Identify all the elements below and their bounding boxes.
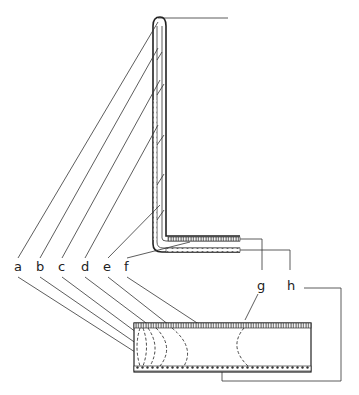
label-g: g — [257, 278, 265, 293]
label-h: h — [287, 278, 295, 293]
label-c: c — [58, 259, 65, 274]
label-f: f — [124, 259, 129, 274]
leader-lines-upper — [18, 22, 190, 258]
layer-diagram: a b c d e f g h — [0, 0, 359, 395]
label-a: a — [14, 259, 22, 274]
label-e: e — [103, 259, 111, 274]
label-b: b — [36, 259, 44, 274]
label-d: d — [81, 259, 89, 274]
l-shaped-wall — [153, 17, 240, 252]
flow-channel-cross-section — [134, 323, 311, 372]
